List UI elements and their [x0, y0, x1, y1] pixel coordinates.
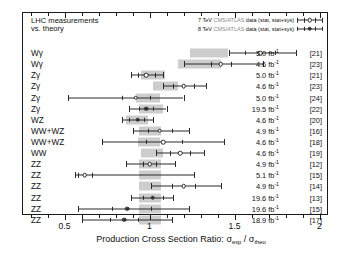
error-cap-sys [221, 183, 222, 189]
axis-tick-minor [116, 215, 117, 218]
axis-tick-minor [133, 215, 134, 218]
luminosity-value: 5.0 fb-1 [256, 70, 279, 80]
sigma-exp: σexp [226, 234, 241, 244]
axis-tick-minor [48, 215, 49, 218]
data-point-marker [178, 151, 183, 156]
axis-tick-minor [99, 13, 100, 16]
error-bar-stat-sys [184, 64, 264, 65]
error-cap-sys [189, 128, 190, 134]
channel-label: WW+WZ [31, 138, 64, 147]
luminosity-value: 19.6 fb-1 [252, 203, 279, 213]
error-cap-stat [170, 151, 171, 155]
error-cap-stat [112, 207, 113, 211]
measurement-row: ZZ4.9 fb-1[12] [23, 159, 327, 170]
reference-citation: [22] [310, 104, 322, 113]
error-cap-stat [151, 207, 152, 211]
luminosity-value: 4.6 fb-1 [256, 137, 279, 147]
axis-tick-minor [167, 215, 168, 218]
measurement-row: ZZ19.6 fb-1[13] [23, 192, 327, 203]
error-cap-stat [144, 118, 145, 122]
data-point-marker [144, 106, 149, 111]
error-cap-stat [148, 129, 149, 133]
axis-tick-minor [269, 13, 270, 16]
data-point-marker [151, 195, 156, 200]
error-cap-sys [68, 95, 69, 101]
error-cap-sys [126, 161, 127, 167]
reference-citation: [20] [310, 115, 322, 124]
axis-tick-major [150, 215, 151, 220]
error-cap-stat [231, 62, 232, 66]
error-cap-sys [151, 183, 152, 189]
axis-tick-major [65, 13, 66, 18]
axis-tick-minor [218, 215, 219, 218]
error-cap-stat [110, 218, 111, 222]
channel-label: Zγ [31, 104, 40, 113]
axis-tick-minor [167, 13, 168, 16]
luminosity-value: 4.9 fb-1 [256, 159, 279, 169]
reference-citation: [21] [310, 49, 322, 58]
error-cap-stat [150, 95, 151, 99]
reference-citation: [23] [310, 60, 322, 69]
error-cap-stat [138, 218, 139, 222]
reference-citation: [24] [310, 93, 322, 102]
error-bar-stat-sys [151, 186, 221, 187]
axis-tick-minor [286, 13, 287, 16]
measurement-row: Zγ4.6 fb-1[23] [23, 81, 327, 92]
error-cap-sys [296, 50, 297, 56]
data-point-marker [147, 162, 152, 167]
reference-citation: [16] [310, 126, 322, 135]
channel-label: ZZ [31, 215, 41, 224]
measurement-row: ZZ4.9 fb-1[14] [23, 181, 327, 192]
error-cap-sys [163, 72, 164, 78]
channel-label: WZ [31, 115, 44, 124]
axis-tick-label: 0.5 [59, 221, 71, 231]
measurement-row: Zγ5.0 fb-1[21] [23, 70, 327, 81]
legend-marker-filled-circle [297, 25, 323, 32]
error-bar-stat-sys [78, 208, 189, 209]
legend-entry-1: 7 TeV CMS/ATLAS data (stat, stat+sys) [198, 16, 323, 25]
data-point-marker [161, 140, 166, 145]
x-axis-title-separator: / [241, 234, 249, 244]
sigma-theo: σtheo [249, 234, 266, 244]
error-cap-stat [163, 195, 164, 199]
error-cap-sys [206, 83, 207, 89]
data-point-marker [144, 73, 149, 78]
axis-tick-minor [31, 13, 32, 16]
luminosity-value: 4.6 fb-1 [256, 115, 279, 125]
luminosity-value: 4.9 fb-1 [256, 181, 279, 191]
error-cap-sys [131, 195, 132, 201]
channel-label: Zγ [31, 71, 40, 80]
measurement-row: Zγ5.0 fb-1[24] [23, 92, 327, 103]
reference-citation: [14] [310, 182, 322, 191]
error-cap-stat [146, 140, 147, 144]
axis-tick-minor [201, 215, 202, 218]
axis-tick-minor [116, 13, 117, 16]
axis-tick-major [65, 215, 66, 220]
channel-label: Wγ [31, 60, 43, 69]
error-cap-stat [211, 62, 212, 66]
error-cap-sys [102, 139, 103, 145]
error-cap-sys [75, 172, 76, 178]
error-bar-stat-sys [68, 97, 184, 98]
measurement-row: WZ4.6 fb-1[20] [23, 114, 327, 125]
top-axis-ticks [22, 13, 328, 14]
header-line-2: vs. theory [31, 25, 99, 33]
reference-citation: [21] [310, 71, 322, 80]
axis-tick-label: 1 [147, 221, 152, 231]
luminosity-value: 5.0 fb-1 [256, 48, 279, 58]
error-cap-sys [129, 106, 130, 112]
axis-tick-minor [303, 215, 304, 218]
error-cap-sys [224, 139, 225, 145]
error-cap-stat [190, 151, 191, 155]
measurement-row: Zγ19.5 fb-1[22] [23, 103, 327, 114]
channel-label: ZZ [31, 171, 41, 180]
error-cap-sys [156, 150, 157, 156]
axis-tick-minor [269, 215, 270, 218]
data-point-marker [135, 117, 140, 122]
error-cap-stat [92, 173, 93, 177]
axis-tick-minor [201, 13, 202, 16]
data-point-marker [122, 218, 127, 223]
axis-tick-minor [48, 13, 49, 16]
channel-label: ZZ [31, 160, 41, 169]
measurement-row: Wγ4.6 fb-1[23] [23, 59, 327, 70]
